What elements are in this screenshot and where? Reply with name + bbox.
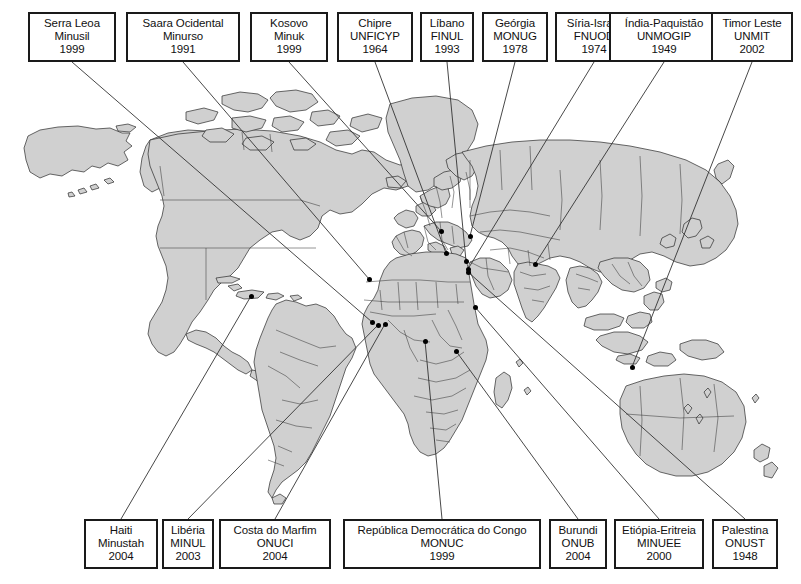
mission-country-name: Costa do Marfim (225, 524, 325, 537)
mission-acronym: ONUST (718, 537, 772, 550)
mission-acronym: FINUL (426, 30, 468, 43)
mission-country-name: Timor Leste (717, 17, 787, 30)
mission-acronym: UNFICYP (343, 30, 407, 43)
mission-label-box: HaitiMinustah2004 (84, 519, 158, 569)
mission-acronym: Minurso (132, 30, 234, 43)
mission-label-box: GeórgiaMONUG1978 (482, 12, 548, 62)
mission-acronym: Minustah (90, 537, 152, 550)
mission-label-box: Saara OcidentalMinurso1991 (126, 12, 240, 62)
mission-marker-dot (383, 322, 388, 327)
mission-marker-dot (423, 339, 428, 344)
mission-year: 1999 (256, 43, 322, 56)
mission-year: 2004 (90, 550, 152, 563)
mission-label-box: Timor LesteUNMIT2002 (711, 12, 793, 62)
mission-country-name: Saara Ocidental (132, 17, 234, 30)
mission-year: 1991 (132, 43, 234, 56)
mission-year: 1993 (426, 43, 468, 56)
mission-label-box: Serra LeoaMinusil1999 (28, 12, 116, 62)
mission-label-box: KosovoMinuk1999 (250, 12, 328, 62)
mission-acronym: MONUG (488, 30, 542, 43)
mission-marker-dot (439, 229, 444, 234)
mission-marker-dot (444, 251, 449, 256)
bottom-label-row: HaitiMinustah2004LibériaMINUL2003Costa d… (0, 0, 801, 584)
mission-year: 2002 (717, 43, 787, 56)
mission-country-name: Chipre (343, 17, 407, 30)
mission-acronym: Minusil (34, 30, 110, 43)
mission-country-name: Palestina (718, 524, 772, 537)
mission-acronym: UNMIT (717, 30, 787, 43)
mission-country-name: Etiópia-Eritreia (620, 524, 698, 537)
mission-country-name: Serra Leoa (34, 17, 110, 30)
mission-year: 1999 (34, 43, 110, 56)
mission-marker-dot (367, 277, 372, 282)
mission-marker-dot (533, 262, 538, 267)
mission-label-box: Costa do MarfimONUCI2004 (219, 519, 331, 569)
mission-label-box: PalestinaONUST1948 (712, 519, 778, 569)
mission-label-box: LibériaMINUL2003 (162, 519, 214, 569)
mission-marker-dot (468, 234, 473, 239)
mission-label-box: ChipreUNFICYP1964 (337, 12, 413, 62)
mission-year: 1964 (343, 43, 407, 56)
mission-year: 2004 (555, 550, 601, 563)
mission-country-name: Líbano (426, 17, 468, 30)
mission-acronym: ONUCI (225, 537, 325, 550)
figure-root: Serra LeoaMinusil1999Saara OcidentalMinu… (0, 0, 801, 584)
mission-label-box: República Democrática do CongoMONUC1999 (343, 519, 541, 569)
mission-year: 2003 (168, 550, 208, 563)
mission-country-name: Geórgia (488, 17, 542, 30)
mission-acronym: UNMOGIP (615, 30, 713, 43)
mission-acronym: MONUC (349, 537, 535, 550)
mission-country-name: Libéria (168, 524, 208, 537)
mission-acronym: MINUEE (620, 537, 698, 550)
mission-label-box: LíbanoFINUL1993 (420, 12, 474, 62)
mission-marker-dot (376, 323, 381, 328)
mission-marker-dot (473, 305, 478, 310)
mission-country-name: Kosovo (256, 17, 322, 30)
mission-label-box: BurundiONUB2004 (549, 519, 607, 569)
mission-marker-dot (454, 349, 459, 354)
mission-year: 1978 (488, 43, 542, 56)
mission-year: 1948 (718, 550, 772, 563)
mission-acronym: ONUB (555, 537, 601, 550)
mission-country-name: Índia-Paquistão (615, 17, 713, 30)
mission-year: 1949 (615, 43, 713, 56)
mission-marker-dot (466, 267, 471, 272)
mission-year: 2000 (620, 550, 698, 563)
mission-marker-dot (370, 320, 375, 325)
mission-country-name: Burundi (555, 524, 601, 537)
mission-label-box: Etiópia-EritreiaMINUEE2000 (614, 519, 704, 569)
mission-marker-dot (249, 294, 254, 299)
mission-country-name: República Democrática do Congo (349, 524, 535, 537)
mission-acronym: MINUL (168, 537, 208, 550)
mission-year: 1999 (349, 550, 535, 563)
mission-acronym: Minuk (256, 30, 322, 43)
mission-label-box: Índia-PaquistãoUNMOGIP1949 (609, 12, 719, 62)
mission-country-name: Haiti (90, 524, 152, 537)
mission-marker-dot (630, 365, 635, 370)
mission-marker-dot (464, 259, 469, 264)
mission-year: 2004 (225, 550, 325, 563)
